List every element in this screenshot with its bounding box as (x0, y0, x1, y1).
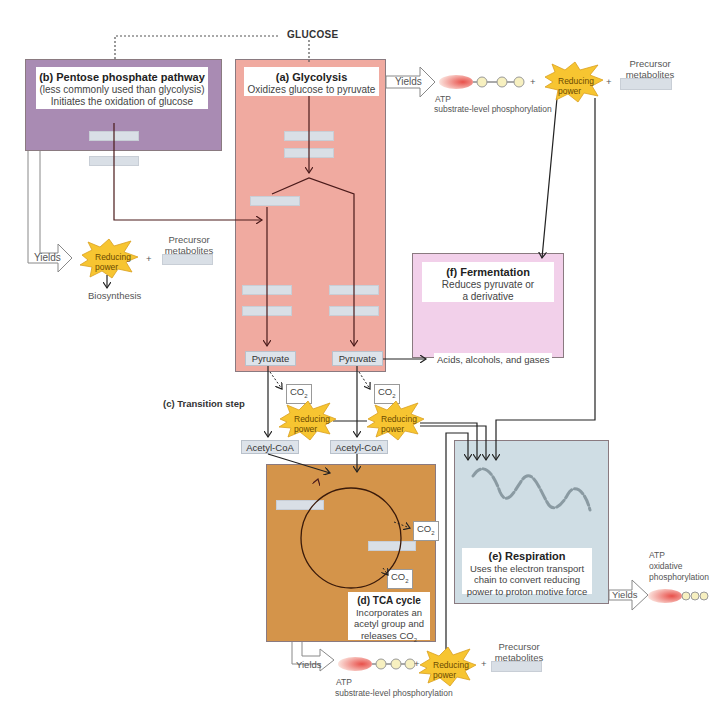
pyruvate-left: Pyruvate (245, 351, 296, 366)
fermentation-products: Acids, alcohols, and gases (434, 353, 552, 367)
acetyl-coa-left: Acetyl-CoA (241, 440, 299, 454)
glycolysis-blank-6 (329, 285, 379, 295)
reducing-text-1: Reducing (95, 252, 131, 262)
acetyl-coa-right: Acetyl-CoA (330, 440, 388, 454)
glycolysis-title: (a) Glycolysis (244, 71, 379, 84)
co2-sub: 2 (431, 530, 434, 536)
co2-text: CO (290, 386, 304, 397)
fermentation-label-box: (f) Fermentation Reduces pyruvate or a d… (422, 262, 554, 302)
glycolysis-plus-2: + (606, 76, 612, 87)
tca-line3: releases CO2 (348, 630, 430, 646)
transition-reducing-left: Reducing power (294, 414, 330, 434)
respiration-line1: Uses the electron transport (462, 563, 592, 575)
tca-label-box: (d) TCA cycle Incorporates an acetyl gro… (348, 592, 430, 640)
respiration-line3: power to proton motive force (462, 586, 592, 598)
respiration-line2: chain to convert reducing (462, 574, 592, 586)
respiration-yields-label: Yields (612, 589, 638, 600)
fermentation-title: (f) Fermentation (422, 266, 554, 279)
pentose-yields-label: Yields (34, 252, 61, 263)
glycolysis-atp-note: substrate-level phosphorylation (434, 104, 552, 115)
pentose-plus: + (146, 253, 152, 264)
fermentation-line2: a derivative (422, 291, 554, 304)
reducing-text-2: power (381, 424, 417, 434)
co2-transition-right: CO2 (374, 384, 400, 404)
pentose-precursor: Precursor metabolites (161, 234, 217, 256)
transition-reducing-right: Reducing power (381, 414, 417, 434)
glycolysis-blank-5 (242, 306, 292, 316)
tca-plus-1: + (414, 658, 420, 669)
co2-sub: 2 (304, 393, 307, 399)
tca-line3-text: releases CO (361, 630, 414, 641)
co2-sub: 2 (392, 393, 395, 399)
pentose-reducing-power: Reducing power (95, 252, 131, 272)
co2-tca-a: CO2 (413, 521, 439, 541)
glycolysis-blank-1 (284, 131, 334, 141)
tca-blank-2 (368, 541, 416, 551)
tca-yields-label: Yields (296, 659, 322, 670)
co2-tca-b: CO2 (387, 569, 413, 589)
tca-precursor: Precursor metabolites (492, 641, 546, 663)
tca-line2: acetyl group and (348, 618, 430, 630)
glycolysis-blank-3 (250, 196, 300, 206)
reducing-text-2: power (433, 670, 469, 680)
tca-plus-2: + (481, 658, 487, 669)
tca-blank-1 (276, 500, 324, 510)
transition-step-title: (c) Transition step (163, 398, 245, 409)
tca-line1: Incorporates an (348, 607, 430, 619)
pentose-title: (b) Pentose phosphate pathway (36, 71, 208, 84)
glycolysis-reducing-power: Reducing power (558, 76, 594, 96)
tca-atp-label: ATP (336, 677, 352, 688)
precursor-text-1: Precursor (161, 234, 217, 245)
glycolysis-blank-2 (284, 148, 334, 158)
tca-reducing-power: Reducing power (433, 660, 469, 680)
fermentation-line1: Reduces pyruvate or (422, 279, 554, 292)
pentose-precursor-blank (162, 254, 213, 265)
glycolysis-panel (235, 59, 386, 372)
glycolysis-label-box: (a) Glycolysis Oxidizes glucose to pyruv… (244, 67, 379, 96)
co2-sub: 2 (405, 578, 408, 584)
tca-line3-sub: 2 (414, 636, 417, 642)
reducing-text-2: power (558, 86, 594, 96)
glycolysis-precursor-blank (620, 78, 672, 90)
precursor-text-1: Precursor (492, 641, 546, 652)
glycolysis-line1: Oxidizes glucose to pyruvate (244, 84, 379, 97)
glycolysis-plus-1: + (530, 76, 536, 87)
pentose-blank-2 (89, 156, 139, 166)
reducing-text-1: Reducing (558, 76, 594, 86)
tca-precursor-blank (491, 661, 542, 672)
pentose-label-box: (b) Pentose phosphate pathway (less comm… (36, 67, 208, 109)
glycolysis-blank-4 (242, 285, 292, 295)
glycolysis-precursor: Precursor metabolites (620, 58, 680, 80)
pentose-blank-1 (89, 131, 139, 141)
atp-note-2: phosphorylation (649, 572, 709, 583)
atp-note-1: oxidative (649, 561, 709, 572)
reducing-text-1: Reducing (294, 414, 330, 424)
co2-text: CO (417, 523, 431, 534)
biosynthesis-label: Biosynthesis (88, 290, 141, 301)
precursor-text-1: Precursor (620, 58, 680, 69)
glycolysis-yields-label: Yields (395, 76, 422, 87)
respiration-atp-label: ATP oxidative phosphorylation (649, 550, 709, 583)
co2-text: CO (391, 571, 405, 582)
atp-text: ATP (649, 550, 709, 561)
reducing-text-2: power (294, 424, 330, 434)
glycolysis-blank-7 (329, 306, 379, 316)
reducing-text-1: Reducing (433, 660, 469, 670)
respiration-label-box: (e) Respiration Uses the electron transp… (462, 548, 592, 594)
reducing-text-2: power (95, 262, 131, 272)
pentose-line1: (less commonly used than glycolysis) (36, 84, 208, 97)
respiration-title: (e) Respiration (462, 551, 592, 563)
tca-atp-note: substrate-level phosphorylation (335, 688, 453, 699)
tca-title: (d) TCA cycle (348, 595, 430, 607)
reducing-text-1: Reducing (381, 414, 417, 424)
pyruvate-right: Pyruvate (332, 351, 383, 366)
glucose-label: GLUCOSE (287, 29, 339, 40)
pentose-line2: Initiates the oxidation of glucose (36, 96, 208, 109)
co2-transition-left: CO2 (286, 384, 312, 404)
co2-text: CO (378, 386, 392, 397)
